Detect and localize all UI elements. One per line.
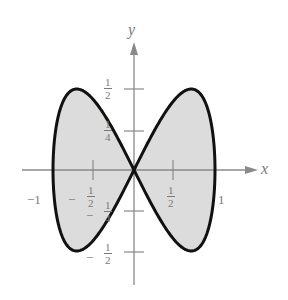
y-axis-label: y — [128, 22, 135, 38]
x-tick-label-neg-half: 1 2 — [87, 185, 95, 209]
x-axis-label: x — [261, 161, 268, 177]
fraction-numerator: 1 — [167, 185, 175, 197]
y-tick-label-neg-half-sign: − — [86, 251, 93, 264]
fraction-numerator: 1 — [104, 200, 112, 212]
y-tick-label-neg-quarter: 1 4 — [104, 200, 112, 224]
fraction-denominator: 4 — [105, 131, 111, 143]
plot-area — [0, 0, 288, 300]
x-tick-label-half: 1 2 — [167, 185, 175, 209]
fraction-denominator: 2 — [168, 197, 174, 209]
y-tick-label-neg-quarter-sign: − — [86, 209, 93, 222]
x-tick-label-one: 1 — [218, 193, 225, 206]
fraction-numerator: 1 — [104, 119, 112, 131]
fraction-denominator: 2 — [105, 254, 111, 266]
y-tick-label-neg-half: 1 2 — [104, 242, 112, 266]
fraction-numerator: 1 — [87, 185, 95, 197]
fraction-numerator: 1 — [104, 77, 112, 89]
fraction-numerator: 1 — [104, 242, 112, 254]
y-tick-label-quarter: 1 4 — [104, 119, 112, 143]
x-axis-arrow-icon — [245, 166, 258, 174]
y-tick-label-half: 1 2 — [104, 77, 112, 101]
x-tick-label-neg-one: −1 — [27, 193, 41, 206]
fraction-denominator: 2 — [105, 89, 111, 101]
x-tick-label-neg-half-sign: − — [68, 193, 75, 206]
y-axis-arrow-icon — [130, 42, 138, 55]
fraction-denominator: 4 — [105, 212, 111, 224]
